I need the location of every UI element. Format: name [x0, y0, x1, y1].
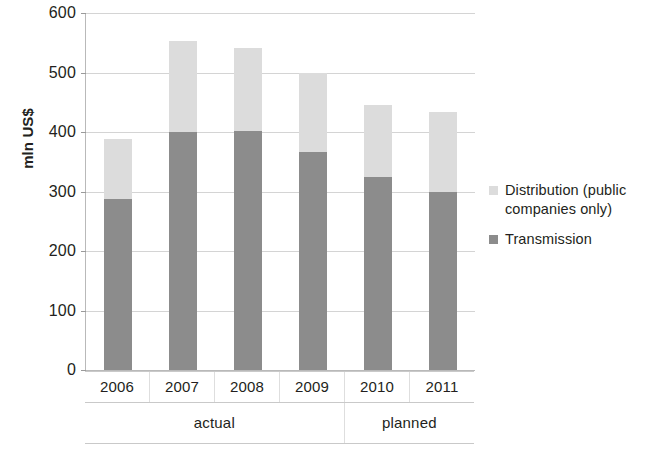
y-axis-tick-label: 200	[49, 242, 76, 260]
legend-item: Transmission	[489, 230, 649, 249]
category-label-row: 200620072008200920102011	[85, 372, 474, 402]
bar-group	[234, 13, 262, 370]
bar-segment-transmission	[234, 131, 262, 370]
y-axis-tick-label: 400	[49, 123, 76, 141]
bar-segment-transmission	[169, 132, 197, 370]
x-axis-group-label: actual	[85, 403, 345, 443]
bar-segment-transmission	[104, 199, 132, 370]
bars-layer	[86, 13, 475, 370]
bar-segment-distribution	[234, 48, 262, 131]
y-axis-tick-label: 0	[67, 361, 76, 379]
y-axis-tick-label: 600	[49, 4, 76, 22]
bar-group	[104, 13, 132, 370]
bar-segment-transmission	[364, 177, 392, 370]
plot-area	[85, 13, 475, 370]
bar-group	[429, 13, 457, 370]
category-axis-table: 200620072008200920102011 actualplanned	[85, 371, 474, 444]
bar-segment-transmission	[299, 152, 327, 370]
x-axis-category-label: 2010	[345, 372, 410, 402]
x-axis-category-label: 2011	[410, 372, 474, 402]
bar-group	[169, 13, 197, 370]
bar-segment-distribution	[169, 41, 197, 132]
x-axis-category-label: 2008	[215, 372, 280, 402]
bar-segment-distribution	[104, 139, 132, 199]
transmission-swatch	[489, 235, 498, 244]
stacked-bar-chart: mln US$ 0100200300400500600 200620072008…	[0, 0, 652, 457]
x-axis-category-label: 2007	[150, 372, 215, 402]
chart-legend: Distribution (public companies only)Tran…	[489, 181, 649, 260]
bar-segment-distribution	[299, 73, 327, 152]
x-axis-category-label: 2006	[85, 372, 150, 402]
legend-label: Distribution (public companies only)	[505, 181, 649, 219]
distribution-swatch	[489, 186, 498, 195]
bar-group	[299, 13, 327, 370]
bar-segment-distribution	[364, 105, 392, 178]
bar-group	[364, 13, 392, 370]
x-axis-category-label: 2009	[280, 372, 345, 402]
legend-item: Distribution (public companies only)	[489, 181, 649, 219]
y-axis-tick-labels: 0100200300400500600	[28, 0, 80, 375]
bar-segment-distribution	[429, 112, 457, 192]
y-axis-tick-label: 300	[49, 183, 76, 201]
y-axis-tick-label: 500	[49, 64, 76, 82]
legend-label: Transmission	[505, 230, 592, 249]
category-group-row: actualplanned	[85, 402, 474, 443]
y-axis-tick-label: 100	[49, 302, 76, 320]
x-axis-group-label: planned	[345, 403, 474, 443]
bar-segment-transmission	[429, 192, 457, 371]
